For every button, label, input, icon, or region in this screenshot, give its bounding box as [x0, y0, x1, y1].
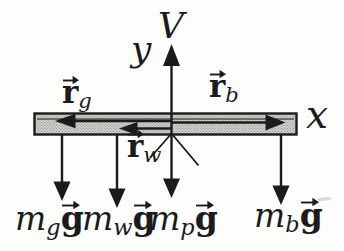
mass-subscript: b [285, 211, 299, 237]
vector-subscript: b [225, 82, 239, 107]
vector-arrow-icon [300, 196, 319, 206]
vector-arrow-icon [209, 68, 226, 78]
vector-subscript: w [143, 142, 161, 167]
mass-subscript: g [46, 214, 60, 240]
weight-arrow-mw [109, 135, 126, 208]
weight-arrow-mp [163, 135, 180, 198]
weight-label-mg-g: mgg [15, 202, 84, 238]
vertical-force-label: V [158, 8, 184, 44]
weight-label-mp-g: mpg [149, 202, 218, 238]
vector-arrow-icon [127, 128, 144, 138]
mass-subscript: w [113, 214, 132, 240]
mass-symbol: m [15, 199, 46, 238]
mass-symbol: m [149, 199, 180, 238]
mass-subscript: p [180, 214, 194, 240]
weight-arrow-mg [54, 135, 71, 201]
vector-arrow-icon [61, 199, 80, 209]
free-body-diagram: V y x r g r b r w mgg mwg [0, 0, 344, 251]
vector-subscript: g [78, 88, 92, 113]
vector-arrow-icon [195, 199, 214, 209]
vector-arrow-icon [62, 74, 79, 84]
vector-label-r-g: r g [62, 77, 92, 111]
x-axis-label: x [306, 95, 328, 134]
mass-symbol: m [254, 196, 285, 235]
y-axis-label: y [131, 31, 151, 67]
weight-label-mb-g: mbg [254, 199, 323, 235]
weight-arrow-mb [273, 135, 290, 205]
vector-label-r-w: r w [127, 131, 161, 165]
mass-symbol: m [82, 199, 113, 238]
vector-label-r-b: r b [209, 71, 239, 105]
weight-label-mw-g: mwg [82, 202, 156, 238]
